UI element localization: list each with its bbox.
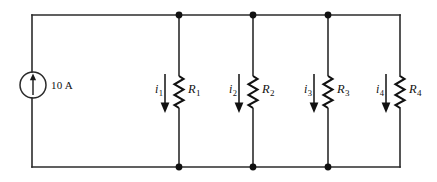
resistor-3-zigzag — [324, 76, 333, 108]
current-4-subscript: 4 — [380, 88, 384, 98]
current-1-arrow-head — [161, 103, 170, 114]
current-1-subscript: 1 — [159, 88, 163, 98]
node-bottom-1-dot — [176, 164, 183, 171]
current-2-symbol: i — [229, 82, 232, 96]
node-top-3-dot — [325, 12, 332, 19]
current-3-label: i3 — [304, 83, 312, 95]
node-top-2-dot — [250, 12, 257, 19]
current-4-arrow-head — [382, 103, 391, 114]
resistor-2-subscript: 2 — [270, 88, 275, 98]
source-value-label: 10 A — [51, 80, 73, 91]
current-source-arrow-head — [30, 74, 36, 81]
circuit-schematic-canvas — [0, 0, 437, 182]
current-1-symbol: i — [155, 82, 158, 96]
node-bottom-3-dot — [325, 164, 332, 171]
resistor-3-subscript: 3 — [345, 88, 350, 98]
circuit-diagram: 10 A i1 R1 i2 R2 i3 R3 i4 R4 — [0, 0, 437, 182]
resistor-1-symbol: R — [188, 82, 196, 96]
current-3-arrow-head — [310, 103, 319, 114]
branch-3-group — [310, 15, 333, 167]
resistor-1-subscript: 1 — [196, 88, 201, 98]
resistor-2-label: R2 — [262, 83, 274, 96]
current-2-subscript: 2 — [233, 88, 237, 98]
resistor-4-subscript: 4 — [417, 88, 422, 98]
resistor-3-symbol: R — [337, 82, 345, 96]
branch-2-group — [235, 15, 258, 167]
branch-1-group — [161, 15, 184, 167]
node-bottom-2-dot — [250, 164, 257, 171]
resistor-3-label: R3 — [337, 83, 349, 96]
resistor-4-label: R4 — [409, 83, 421, 96]
current-1-label: i1 — [155, 83, 163, 95]
current-3-subscript: 3 — [308, 88, 312, 98]
resistor-1-zigzag — [175, 76, 184, 108]
resistor-4-symbol: R — [409, 82, 417, 96]
current-2-label: i2 — [229, 83, 237, 95]
resistor-2-symbol: R — [262, 82, 270, 96]
current-4-symbol: i — [376, 82, 379, 96]
branch-4-group — [382, 74, 405, 113]
current-3-symbol: i — [304, 82, 307, 96]
resistor-4-zigzag — [396, 76, 405, 108]
current-2-arrow-head — [235, 103, 244, 114]
current-source-symbol — [20, 72, 46, 98]
resistor-2-zigzag — [249, 76, 258, 108]
current-4-label: i4 — [376, 83, 384, 95]
node-top-1-dot — [176, 12, 183, 19]
resistor-1-label: R1 — [188, 83, 200, 96]
